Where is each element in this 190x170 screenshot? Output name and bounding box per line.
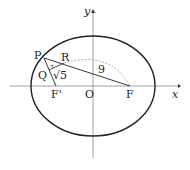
label-x-axis: x xyxy=(172,88,179,101)
label-y-axis: y xyxy=(83,5,91,18)
label-origin: O xyxy=(85,88,94,101)
label-f-prime: F' xyxy=(51,88,62,101)
y-axis-arrow-icon xyxy=(91,9,95,13)
label-q: Q xyxy=(38,69,47,82)
label-p: P xyxy=(34,49,42,62)
ellipse-diagram: P R Q √5 9 F' O F x y xyxy=(0,0,190,170)
label-sqrt5: √5 xyxy=(53,69,67,82)
label-f: F xyxy=(126,88,134,101)
dashed-arc-pf xyxy=(64,60,130,86)
label-r: R xyxy=(61,51,70,64)
right-angle-marker xyxy=(50,65,53,68)
label-9: 9 xyxy=(98,63,105,76)
x-axis-arrow-icon xyxy=(178,84,181,88)
